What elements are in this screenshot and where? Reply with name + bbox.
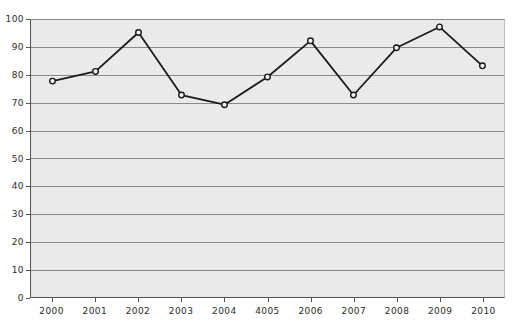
data-point-marker: [265, 74, 271, 80]
x-axis-tick-mark: [311, 298, 312, 302]
x-axis-tick-mark: [95, 298, 96, 302]
x-axis-tick-label: 2006: [298, 306, 323, 316]
x-axis-tick-label: 4005: [255, 306, 280, 316]
data-point-marker: [351, 92, 357, 98]
y-axis-tick-mark: [26, 19, 30, 20]
y-axis-tick-mark: [26, 242, 30, 243]
x-axis-tick-label: 2007: [342, 306, 367, 316]
y-axis-tick-label: 60: [12, 126, 24, 136]
x-axis-tick-mark: [483, 298, 484, 302]
y-axis-tick-mark: [26, 131, 30, 132]
y-axis-tick-label: 0: [18, 293, 24, 303]
data-point-marker: [179, 92, 185, 98]
data-point-marker: [50, 78, 56, 84]
x-axis-tick-mark: [138, 298, 139, 302]
x-axis-tick-label: 2002: [126, 306, 151, 316]
line-chart: 0102030405060708090100 20002001200220032…: [0, 0, 515, 329]
x-axis-tick-label: 2000: [39, 306, 64, 316]
x-axis-tick-label: 2010: [471, 306, 496, 316]
x-axis-tick-label: 2008: [385, 306, 410, 316]
y-axis-tick-mark: [26, 47, 30, 48]
y-axis-tick-label: 50: [12, 154, 24, 164]
y-axis-tick-mark: [26, 159, 30, 160]
y-axis-tick-label: 100: [6, 14, 24, 24]
data-series: [31, 20, 504, 298]
y-axis-tick-mark: [26, 214, 30, 215]
y-axis-tick-mark: [26, 298, 30, 299]
y-axis-tick-label: 10: [12, 265, 24, 275]
y-axis-labels: 0102030405060708090100: [0, 0, 24, 329]
y-axis-tick-label: 20: [12, 237, 24, 247]
x-axis-tick-mark: [440, 298, 441, 302]
data-point-marker: [308, 38, 314, 44]
data-point-marker: [394, 45, 400, 51]
x-axis-tick-mark: [354, 298, 355, 302]
x-axis-tick-mark: [397, 298, 398, 302]
x-axis-tick-mark: [224, 298, 225, 302]
y-axis-tick-label: 30: [12, 209, 24, 219]
y-axis-tick-label: 80: [12, 70, 24, 80]
x-axis-tick-mark: [268, 298, 269, 302]
y-axis-tick-mark: [26, 75, 30, 76]
series-line: [52, 27, 482, 105]
x-axis-tick-label: 2009: [428, 306, 453, 316]
x-axis-tick-label: 2001: [83, 306, 108, 316]
data-point-marker: [480, 63, 486, 69]
y-axis-tick-label: 90: [12, 42, 24, 52]
x-axis-tick-label: 2004: [212, 306, 237, 316]
x-axis-tick-label: 2003: [169, 306, 194, 316]
data-point-marker: [136, 30, 142, 36]
x-axis-tick-mark: [52, 298, 53, 302]
data-point-marker: [93, 69, 99, 75]
y-axis-tick-label: 70: [12, 98, 24, 108]
y-axis-tick-mark: [26, 186, 30, 187]
y-axis-tick-mark: [26, 270, 30, 271]
y-axis-tick-mark: [26, 103, 30, 104]
data-point-marker: [222, 102, 228, 108]
plot-area: [30, 19, 505, 298]
x-axis-tick-mark: [181, 298, 182, 302]
data-point-marker: [437, 24, 443, 30]
y-axis-tick-label: 40: [12, 181, 24, 191]
